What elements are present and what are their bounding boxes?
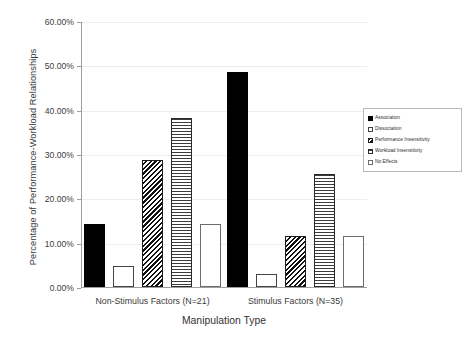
y-axis-line bbox=[81, 22, 82, 288]
x-axis-line bbox=[81, 287, 367, 288]
legend-swatch-icon bbox=[368, 149, 373, 154]
y-tick-mark bbox=[77, 288, 81, 289]
legend-item-label: Association bbox=[375, 116, 400, 121]
x-axis-category-label: Non-Stimulus Factors (N=21) bbox=[73, 296, 233, 306]
y-tick-label: 30.00% bbox=[45, 150, 74, 160]
y-tick-label: 40.00% bbox=[45, 106, 74, 116]
bar bbox=[200, 224, 221, 287]
y-tick-label: 0.00% bbox=[50, 283, 74, 293]
y-tick-label: 20.00% bbox=[45, 194, 74, 204]
legend-swatch-icon bbox=[368, 127, 373, 132]
legend-item: No Effects bbox=[368, 157, 458, 167]
gridline bbox=[81, 66, 367, 67]
legend-item: Association bbox=[368, 113, 458, 123]
y-tick-label: 60.00% bbox=[45, 17, 74, 27]
bar-chart: Percentage of Performance-Workload Relat… bbox=[0, 0, 465, 339]
bar bbox=[113, 266, 134, 287]
bar bbox=[171, 118, 192, 287]
y-tick-label: 50.00% bbox=[45, 61, 74, 71]
legend-item-label: Dissociation bbox=[375, 127, 401, 132]
chart-legend: AssociationDissociationPerformance Insen… bbox=[363, 108, 462, 172]
legend-item-label: No Effects bbox=[375, 160, 397, 165]
legend-swatch-icon bbox=[368, 116, 373, 121]
bar bbox=[343, 236, 364, 287]
gridline bbox=[81, 155, 367, 156]
bar bbox=[256, 274, 277, 287]
legend-swatch-icon bbox=[368, 160, 373, 165]
gridline bbox=[81, 111, 367, 112]
legend-item: Workload Insensitivity bbox=[368, 146, 458, 156]
bar bbox=[142, 160, 163, 287]
legend-item: Dissociation bbox=[368, 124, 458, 134]
bar bbox=[227, 72, 248, 287]
bar bbox=[84, 224, 105, 287]
x-axis-title: Manipulation Type bbox=[81, 315, 367, 326]
legend-item-label: Workload Insensitivity bbox=[375, 149, 422, 154]
gridline bbox=[81, 22, 367, 23]
legend-item-label: Performance Insensitivity bbox=[375, 138, 430, 143]
legend-swatch-icon bbox=[368, 138, 373, 143]
legend-item: Performance Insensitivity bbox=[368, 135, 458, 145]
x-axis-category-label: Stimulus Factors (N=35) bbox=[216, 296, 376, 306]
y-tick-label: 10.00% bbox=[45, 239, 74, 249]
y-axis-title: Percentage of Performance-Workload Relat… bbox=[28, 12, 38, 302]
plot-area: 0.00%10.00%20.00%30.00%40.00%50.00%60.00… bbox=[81, 22, 367, 288]
bar bbox=[314, 174, 335, 287]
bar bbox=[285, 236, 306, 287]
